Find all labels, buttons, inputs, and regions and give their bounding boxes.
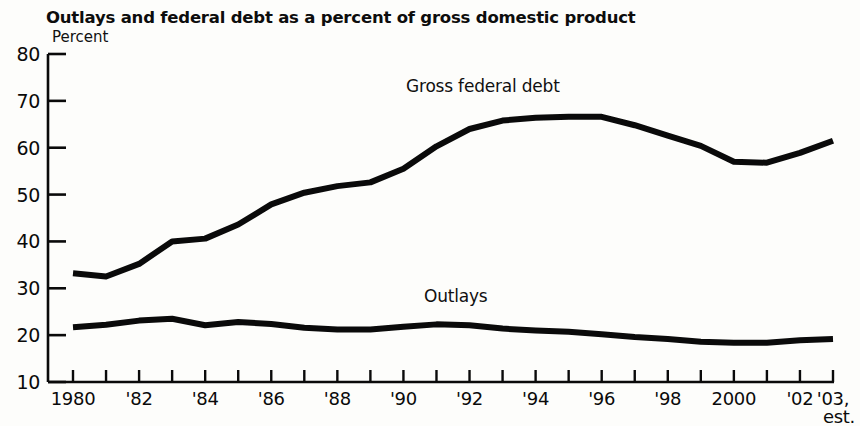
- x-axis-tick-label: '92: [456, 388, 483, 409]
- x-axis-tick-label: '94: [522, 388, 549, 409]
- x-axis-tick-label: 2000: [712, 388, 757, 409]
- x-axis-tick-label: '02: [786, 388, 813, 409]
- y-axis-tick-label: 80: [0, 43, 40, 65]
- chart-plot-area: [0, 0, 860, 426]
- x-axis-tick-label: 1980: [51, 388, 96, 409]
- y-axis-tick-label: 40: [0, 230, 40, 252]
- x-axis-tick-label: '84: [192, 388, 219, 409]
- x-axis-tick-label: '96: [588, 388, 615, 409]
- y-axis-tick-label: 30: [0, 277, 40, 299]
- series-line-outlays: [73, 319, 833, 343]
- x-axis-tick-label: '82: [126, 388, 153, 409]
- x-axis-tick-label: '98: [654, 388, 681, 409]
- y-axis-tick-label: 50: [0, 184, 40, 206]
- y-axis-tick-label: 60: [0, 137, 40, 159]
- x-axis-tick-label: '86: [258, 388, 285, 409]
- y-axis-tick-label: 10: [0, 371, 40, 393]
- x-axis-ticks: [73, 370, 833, 382]
- x-axis-tick-label: '90: [390, 388, 417, 409]
- y-axis-tick-label: 70: [0, 90, 40, 112]
- chart-axes: [48, 54, 834, 382]
- series-label-gross-federal-debt: Gross federal debt: [406, 76, 560, 96]
- y-axis-tick-label: 20: [0, 324, 40, 346]
- chart-page: Outlays and federal debt as a percent of…: [0, 0, 860, 426]
- series-line-gross-federal-debt: [73, 117, 833, 277]
- x-axis-tick-label: '88: [324, 388, 351, 409]
- y-axis-ticks: [48, 54, 66, 382]
- x-axis-tick-sublabel: est.: [823, 406, 855, 426]
- chart-series-lines: [73, 117, 833, 343]
- series-label-outlays: Outlays: [424, 286, 487, 306]
